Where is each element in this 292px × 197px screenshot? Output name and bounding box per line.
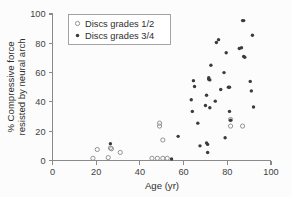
chart-legend: Discs grades 1/2 Discs grades 3/4 <box>69 15 171 45</box>
data-point-filled <box>196 121 199 124</box>
data-point-filled <box>170 157 173 160</box>
data-point-filled <box>251 34 254 37</box>
data-point-filled <box>228 86 231 89</box>
data-point-filled <box>225 51 228 54</box>
data-point-filled <box>190 98 193 101</box>
x-tick-label: 0 <box>50 167 55 177</box>
data-point-filled <box>192 79 195 82</box>
x-axis-title: Age (yr) <box>145 180 179 191</box>
data-point-filled <box>191 110 194 113</box>
data-point-filled <box>176 135 179 138</box>
y-tick-label: 60 <box>35 68 45 78</box>
x-tick-label: 100 <box>263 167 278 177</box>
x-tick-label: 80 <box>222 167 232 177</box>
data-point-filled <box>243 56 246 59</box>
legend-marker-filled-circle-icon <box>76 34 80 38</box>
data-point-filled <box>222 71 225 74</box>
data-point-filled <box>198 144 201 147</box>
chart-canvas: 020406080100 020406080100 Discs grades 1… <box>0 0 292 197</box>
data-point-filled <box>219 88 222 91</box>
data-point-filled <box>250 89 253 92</box>
data-point-filled <box>214 99 217 102</box>
y-axis-title-line2: resisted by neural arch <box>16 38 27 135</box>
data-point-filled <box>223 136 226 139</box>
x-tick-label: 60 <box>178 167 188 177</box>
data-point-filled <box>206 151 209 154</box>
data-point-filled <box>204 104 207 107</box>
data-point-filled <box>228 110 231 113</box>
data-point-filled <box>109 142 112 145</box>
y-tick-label: 80 <box>35 39 45 49</box>
data-point-filled <box>205 94 208 97</box>
data-point-filled <box>209 64 212 67</box>
data-point-filled <box>217 38 220 41</box>
data-point-filled <box>249 80 252 83</box>
data-point-filled <box>208 106 211 109</box>
data-point-filled <box>206 143 209 146</box>
x-tick-label: 20 <box>91 167 101 177</box>
data-point-filled <box>193 85 196 88</box>
y-tick-label: 20 <box>35 127 45 137</box>
scatter-plot-figure: 020406080100 020406080100 Discs grades 1… <box>0 0 292 197</box>
data-point-filled <box>240 46 243 49</box>
data-point-filled <box>215 41 218 44</box>
y-axis-title-line1: % Compressive force <box>5 41 16 132</box>
legend-label-grades-3-4: Discs grades 3/4 <box>85 31 154 41</box>
data-point-filled <box>252 105 255 108</box>
y-tick-label: 100 <box>30 9 45 19</box>
data-point-filled <box>208 78 211 81</box>
data-point-filled <box>242 19 245 22</box>
legend-label-grades-1-2: Discs grades 1/2 <box>85 19 154 29</box>
y-tick-label: 0 <box>40 156 45 166</box>
x-tick-label: 40 <box>135 167 145 177</box>
data-point-filled <box>229 119 232 122</box>
y-tick-label: 40 <box>35 97 45 107</box>
